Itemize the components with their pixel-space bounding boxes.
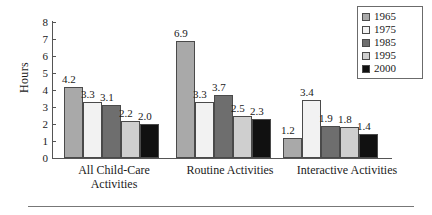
y-tick-label-5: 5 (32, 68, 48, 78)
bar-value-label-1985-group-3: 1.9 (319, 113, 333, 124)
bar-value-label-1975-group-2: 3.3 (193, 89, 207, 100)
y-tick-label-6: 6 (32, 51, 48, 61)
bar-1975-group-1[interactable] (83, 102, 102, 158)
legend-label-1975: 1975 (374, 24, 396, 35)
bar-value-label-1975-group-1: 3.3 (81, 89, 95, 100)
bar-1975-group-3[interactable] (302, 100, 321, 158)
bar-value-label-2000-group-1: 2.0 (138, 111, 152, 122)
bar-value-label-1985-group-2: 3.7 (212, 82, 226, 93)
bar-1995-group-2[interactable] (233, 116, 252, 159)
bar-value-label-1975-group-3: 3.4 (300, 87, 314, 98)
bar-1975-group-2[interactable] (195, 102, 214, 158)
x-category-label-3: Interactive Activities (272, 163, 422, 177)
y-tick-label-2: 2 (32, 119, 48, 129)
legend: 19651975198519952000 (357, 6, 423, 79)
bar-2000-group-3[interactable] (359, 134, 378, 158)
bar-value-label-1965-group-3: 1.2 (281, 125, 295, 136)
y-tick-label-4: 4 (32, 85, 48, 95)
legend-item-1985[interactable]: 1985 (362, 36, 418, 49)
bar-value-label-1985-group-1: 3.1 (100, 92, 114, 103)
bar-group-1: 4.23.33.12.22.0 (64, 22, 159, 158)
bar-value-label-1995-group-1: 2.2 (119, 108, 133, 119)
y-tick-label-3: 3 (32, 102, 48, 112)
bar-value-label-1995-group-3: 1.8 (338, 114, 352, 125)
legend-swatch-1985 (362, 39, 370, 47)
chart-figure: Hours 876543210 4.23.33.12.22.06.93.33.7… (0, 0, 432, 215)
legend-label-1995: 1995 (374, 50, 396, 61)
legend-item-2000[interactable]: 2000 (362, 62, 418, 75)
bar-value-label-1995-group-2: 2.5 (231, 103, 245, 114)
y-tick-label-1: 1 (32, 136, 48, 146)
legend-swatch-1975 (362, 26, 370, 34)
bar-value-label-1965-group-2: 6.9 (174, 28, 188, 39)
bar-2000-group-2[interactable] (252, 119, 271, 158)
y-tick-label-0: 0 (32, 153, 48, 163)
x-axis-line (52, 158, 392, 159)
bar-group-2: 6.93.33.72.52.3 (176, 22, 271, 158)
legend-swatch-2000 (362, 65, 370, 73)
legend-label-2000: 2000 (374, 63, 396, 74)
y-axis-title: Hours (17, 48, 32, 108)
bar-2000-group-1[interactable] (140, 124, 159, 158)
bar-1965-group-3[interactable] (283, 138, 302, 158)
bar-value-label-2000-group-2: 2.3 (250, 106, 264, 117)
bar-1985-group-3[interactable] (321, 126, 340, 158)
y-tick-label-8: 8 (32, 17, 48, 27)
legend-item-1965[interactable]: 1965 (362, 10, 418, 23)
legend-label-1965: 1965 (374, 11, 396, 22)
legend-item-1975[interactable]: 1975 (362, 23, 418, 36)
legend-swatch-1995 (362, 52, 370, 60)
bar-value-label-1965-group-1: 4.2 (62, 74, 76, 85)
bar-1995-group-1[interactable] (121, 121, 140, 158)
footer-rule (28, 206, 414, 207)
legend-swatch-1965 (362, 13, 370, 21)
legend-item-1995[interactable]: 1995 (362, 49, 418, 62)
legend-label-1985: 1985 (374, 37, 396, 48)
x-category-label-1-line2: Activities (44, 177, 184, 191)
bar-value-label-2000-group-3: 1.4 (357, 121, 371, 132)
y-tick-label-7: 7 (32, 34, 48, 44)
plot-area: 4.23.33.12.22.06.93.33.72.52.31.23.41.91… (52, 22, 392, 158)
y-tick-mark-0 (52, 158, 56, 159)
